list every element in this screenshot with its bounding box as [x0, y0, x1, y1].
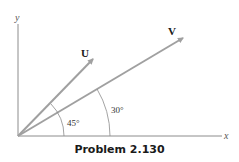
vector-v	[18, 38, 183, 136]
angle-arc-30	[97, 89, 110, 136]
angle-label-30: 30°	[111, 105, 124, 115]
vector-v-label: V	[168, 25, 176, 37]
x-axis-label: x	[223, 130, 229, 141]
angle-label-45: 45°	[67, 118, 80, 128]
figure-caption: Problem 2.130	[0, 143, 239, 156]
y-axis-label: y	[14, 12, 20, 23]
vector-u-label: U	[81, 47, 89, 59]
vector-diagram: y x U V 45° 30°	[0, 0, 239, 162]
